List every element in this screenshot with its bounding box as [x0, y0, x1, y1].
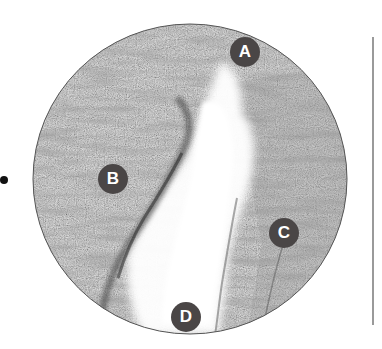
bullet-dot — [0, 176, 8, 184]
label-marker-d: D — [171, 302, 201, 332]
label-marker-b: B — [98, 164, 128, 194]
waterfall-photo — [32, 23, 348, 335]
label-marker-c: C — [269, 218, 299, 248]
divider-line — [372, 37, 374, 325]
label-marker-a: A — [230, 37, 260, 67]
